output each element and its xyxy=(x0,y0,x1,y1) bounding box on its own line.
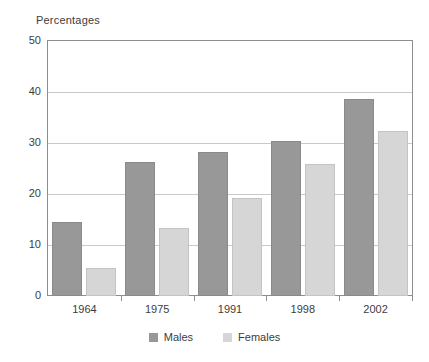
bar-chart: Percentages 01020304050 1964197519911998… xyxy=(0,0,429,362)
y-tick-label-20: 20 xyxy=(1,187,41,199)
legend-item-males[interactable]: Males xyxy=(149,331,193,343)
x-tick-label-1991: 1991 xyxy=(218,303,242,315)
x-tick-label-1964: 1964 xyxy=(72,303,96,315)
legend-swatch-males-icon xyxy=(149,333,158,342)
bar-group-2002 xyxy=(339,41,412,296)
bar-males-1991 xyxy=(198,152,228,296)
bar-females-1964 xyxy=(86,268,116,296)
y-tick-label-0: 0 xyxy=(1,289,41,301)
x-tick-1 xyxy=(121,296,122,301)
chart-legend: MalesFemales xyxy=(0,331,429,343)
y-tick-label-10: 10 xyxy=(1,238,41,250)
x-tick-4 xyxy=(339,296,340,301)
chart-title: Percentages xyxy=(36,14,100,26)
bar-males-2002 xyxy=(344,99,374,296)
x-tick-3 xyxy=(266,296,267,301)
x-tick-end xyxy=(412,296,413,301)
x-axis: 19641975199119982002 xyxy=(48,296,412,320)
bar-group-1975 xyxy=(121,41,194,296)
y-tick-label-30: 30 xyxy=(1,136,41,148)
y-axis: 01020304050 xyxy=(0,40,41,296)
bars-layer xyxy=(48,41,412,296)
bar-males-1964 xyxy=(52,222,82,296)
bar-females-2002 xyxy=(378,131,408,296)
legend-label-females: Females xyxy=(238,331,280,343)
bar-males-1998 xyxy=(271,141,301,296)
y-tick-label-50: 50 xyxy=(1,34,41,46)
bar-males-1975 xyxy=(125,162,155,296)
bar-females-1991 xyxy=(232,198,262,296)
bar-group-1998 xyxy=(266,41,339,296)
x-tick-2 xyxy=(194,296,195,301)
bar-group-1991 xyxy=(194,41,267,296)
legend-label-males: Males xyxy=(164,331,193,343)
x-tick-label-1998: 1998 xyxy=(291,303,315,315)
legend-swatch-females-icon xyxy=(223,333,232,342)
x-tick-label-1975: 1975 xyxy=(145,303,169,315)
y-tick-label-40: 40 xyxy=(1,85,41,97)
bar-females-1998 xyxy=(305,164,335,296)
bar-females-1975 xyxy=(159,228,189,296)
bar-group-1964 xyxy=(48,41,121,296)
legend-item-females[interactable]: Females xyxy=(223,331,280,343)
x-tick-label-2002: 2002 xyxy=(363,303,387,315)
